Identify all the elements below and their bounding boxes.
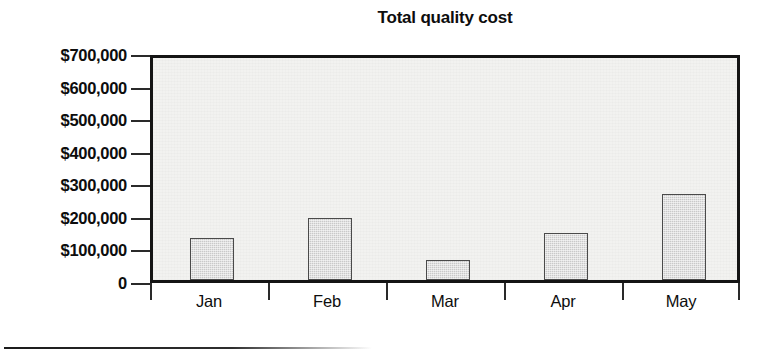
x-axis-separator-tick [622,283,624,300]
x-axis-separator-tick [504,283,506,300]
x-axis-tick-label-apr: Apr [504,292,622,311]
footer-rule [4,347,372,349]
x-axis-tick-label-feb: Feb [268,292,386,311]
x-axis-tick-label-may: May [622,292,740,311]
bar-chart-figure: Total quality cost $700,000$600,000$500,… [0,0,781,354]
x-axis: JanFebMarAprMay [0,0,781,354]
x-axis-tick-label-jan: Jan [150,292,268,311]
x-axis-separator-tick [386,283,388,300]
x-axis-tick-label-mar: Mar [386,292,504,311]
x-axis-separator-tick [268,283,270,300]
